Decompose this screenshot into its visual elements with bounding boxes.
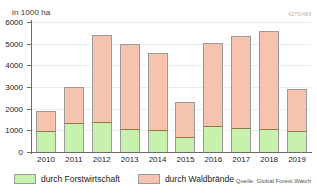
bar-segment-fire[interactable]: [259, 31, 279, 130]
y-tick-mark: [27, 65, 31, 66]
x-tick-label: 2011: [60, 155, 88, 164]
bar-segment-fire[interactable]: [231, 36, 251, 128]
legend-label-forestry: durch Forstwirtschaft: [41, 174, 120, 184]
x-tick-label: 2017: [227, 155, 255, 164]
bar-segment-fire[interactable]: [287, 89, 307, 131]
y-tick-label: 6000: [5, 18, 23, 27]
bar-group[interactable]: [175, 22, 195, 152]
bar-segment-fire[interactable]: [175, 102, 195, 137]
y-tick-mark: [27, 22, 31, 23]
x-tick-label: 2012: [88, 155, 116, 164]
y-tick-label: 2000: [5, 104, 23, 113]
y-tick-label: 3000: [5, 83, 23, 92]
x-tick-label: 2019: [283, 155, 311, 164]
chart-container: in 1000 ha 4275/48X 01000200030004000500…: [0, 0, 317, 195]
bar-group[interactable]: [92, 22, 112, 152]
y-tick-label: 1000: [5, 126, 23, 135]
bar-segment-forestry[interactable]: [36, 131, 56, 152]
y-tick-mark: [27, 130, 31, 131]
bar-group[interactable]: [36, 22, 56, 152]
x-tick-label: 2015: [172, 155, 200, 164]
plot-area: [32, 22, 311, 152]
bar-segment-fire[interactable]: [203, 43, 223, 126]
legend-item-fire: durch Waldbrände: [138, 174, 234, 184]
legend-swatch-forestry: [14, 174, 36, 184]
bar-segment-forestry[interactable]: [231, 128, 251, 152]
bar-group[interactable]: [203, 22, 223, 152]
legend-item-forestry: durch Forstwirtschaft: [14, 174, 120, 184]
x-tick-label: 2013: [116, 155, 144, 164]
bar-group[interactable]: [287, 22, 307, 152]
image-id-label: 4275/48X: [288, 11, 312, 17]
bar-segment-fire[interactable]: [120, 44, 140, 130]
x-axis-line: [29, 152, 312, 153]
source-attribution: Quelle: Global Forest Watch: [236, 178, 311, 184]
y-tick-label: 5000: [5, 39, 23, 48]
bar-segment-forestry[interactable]: [92, 122, 112, 152]
bar-segment-forestry[interactable]: [175, 137, 195, 152]
y-tick-mark: [27, 44, 31, 45]
bar-group[interactable]: [148, 22, 168, 152]
bar-group[interactable]: [64, 22, 84, 152]
bar-group[interactable]: [120, 22, 140, 152]
bar-segment-forestry[interactable]: [120, 129, 140, 152]
bar-segment-forestry[interactable]: [287, 131, 307, 152]
x-tick-label: 2014: [144, 155, 172, 164]
bar-segment-forestry[interactable]: [64, 123, 84, 152]
bar-segment-fire[interactable]: [36, 111, 56, 132]
x-tick-label: 2010: [32, 155, 60, 164]
bar-segment-fire[interactable]: [64, 87, 84, 123]
y-axis-unit-label: in 1000 ha: [12, 8, 50, 17]
bar-segment-forestry[interactable]: [259, 129, 279, 152]
bar-segment-forestry[interactable]: [148, 130, 168, 152]
y-tick-mark: [27, 109, 31, 110]
y-tick-label: 4000: [5, 61, 23, 70]
y-tick-label: 0: [19, 148, 23, 157]
legend-swatch-fire: [138, 174, 160, 184]
bar-segment-forestry[interactable]: [203, 126, 223, 152]
y-tick-mark: [27, 87, 31, 88]
legend-label-fire: durch Waldbrände: [165, 174, 234, 184]
bar-group[interactable]: [259, 22, 279, 152]
bar-group[interactable]: [231, 22, 251, 152]
y-tick-mark: [27, 152, 31, 153]
chart-legend: durch Forstwirtschaft durch Waldbrände: [14, 174, 234, 184]
x-tick-label: 2018: [255, 155, 283, 164]
x-tick-label: 2016: [199, 155, 227, 164]
bar-segment-fire[interactable]: [92, 35, 112, 122]
bar-segment-fire[interactable]: [148, 53, 168, 130]
